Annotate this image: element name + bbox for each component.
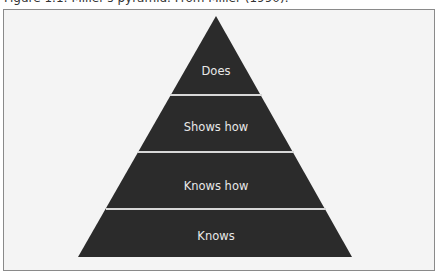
level-knows-how: Knows how <box>184 179 249 193</box>
level-does: Does <box>202 64 231 78</box>
level-knows: Knows <box>197 229 234 243</box>
level-shows-how: Shows how <box>184 120 248 134</box>
pyramid-shape <box>78 16 352 257</box>
